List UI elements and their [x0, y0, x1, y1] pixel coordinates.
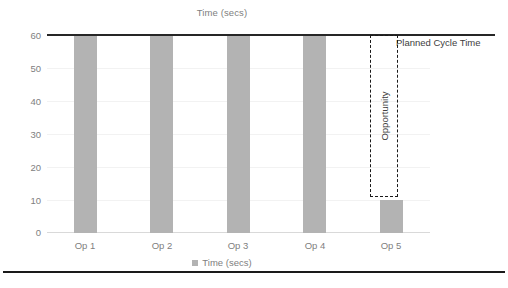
x-axis-label-op-3: Op 3 — [208, 240, 268, 251]
chart-title: Time (secs) — [0, 7, 444, 18]
y-axis-tick-10: 10 — [30, 195, 41, 206]
chart-legend: Time (secs) — [0, 257, 444, 268]
y-axis-tick-20: 20 — [30, 162, 41, 173]
x-axis-label-op-4: Op 4 — [285, 240, 345, 251]
bar-op-3[interactable] — [227, 35, 250, 233]
y-axis-tick-30: 30 — [30, 129, 41, 140]
bar-op-2[interactable] — [150, 35, 173, 233]
x-axis-label-op-1: Op 1 — [55, 240, 115, 251]
bar-chart: Time (secs) 60 50 40 30 20 10 0 Op 1 Op … — [0, 0, 508, 288]
bar-op-1[interactable] — [74, 35, 97, 233]
bottom-divider — [3, 271, 505, 273]
legend-label: Time (secs) — [202, 257, 251, 268]
y-axis-tick-60: 60 — [30, 30, 41, 41]
bar-op-4[interactable] — [303, 35, 326, 233]
legend-swatch-icon — [192, 260, 198, 266]
planned-cycle-time-label: Planned Cycle Time — [396, 37, 480, 48]
opportunity-dashed-box — [370, 35, 398, 197]
y-axis-tick-40: 40 — [30, 96, 41, 107]
bar-op-5[interactable] — [380, 200, 403, 233]
y-axis-tick-0: 0 — [36, 227, 41, 238]
planned-cycle-time-line — [47, 34, 495, 36]
x-axis-label-op-2: Op 2 — [132, 240, 192, 251]
y-axis-tick-50: 50 — [30, 63, 41, 74]
x-axis-label-op-5: Op 5 — [361, 240, 421, 251]
